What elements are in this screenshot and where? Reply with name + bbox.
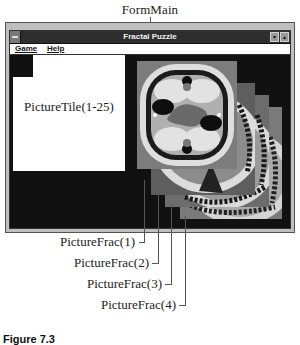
picture-frac-4-leader [185, 216, 186, 305]
picture-frac-3-leader [171, 204, 172, 284]
picture-tile-label: PictureTile(1-25) [13, 99, 125, 115]
maximize-icon: ▴ [281, 33, 288, 41]
picture-frac-1-leader-h [139, 242, 145, 243]
picture-frac-3-label: PictureFrac(3) [87, 276, 162, 292]
picture-frac-2-label: PictureFrac(2) [74, 255, 149, 271]
picture-tile-area[interactable]: PictureTile(1-25) [13, 55, 125, 171]
picture-frac-4-leader-h [179, 305, 186, 306]
formmain-callout-label: FormMain [0, 2, 300, 18]
empty-tile-slot [13, 55, 33, 77]
fractal-puzzle-window: Fractal Puzzle ▾ ▴ Game Help PictureTile… [5, 22, 295, 233]
menu-help[interactable]: Help [47, 44, 64, 54]
menu-bar: Game Help [10, 44, 290, 55]
fractal-image-icon [137, 61, 237, 169]
picture-frac-1[interactable] [137, 61, 237, 169]
picture-frac-1-leader [144, 180, 145, 242]
figure-caption: Figure 7.3 [3, 333, 55, 345]
picture-frac-2-leader-h [152, 263, 159, 264]
menu-game[interactable]: Game [15, 44, 37, 54]
window-title: Fractal Puzzle [10, 31, 290, 43]
picture-frac-4-label: PictureFrac(4) [101, 297, 176, 313]
picture-frac-3-leader-h [165, 284, 172, 285]
picture-frac-1-label: PictureFrac(1) [60, 234, 135, 250]
window-frame: Fractal Puzzle ▾ ▴ Game Help PictureTile… [9, 30, 291, 229]
title-bar[interactable]: Fractal Puzzle ▾ ▴ [10, 31, 290, 44]
minimize-icon: ▾ [271, 33, 278, 41]
minimize-button[interactable]: ▾ [270, 32, 279, 42]
maximize-button[interactable]: ▴ [280, 32, 289, 42]
client-area: PictureTile(1-25) [10, 55, 290, 228]
picture-frac-2-leader [158, 192, 159, 263]
